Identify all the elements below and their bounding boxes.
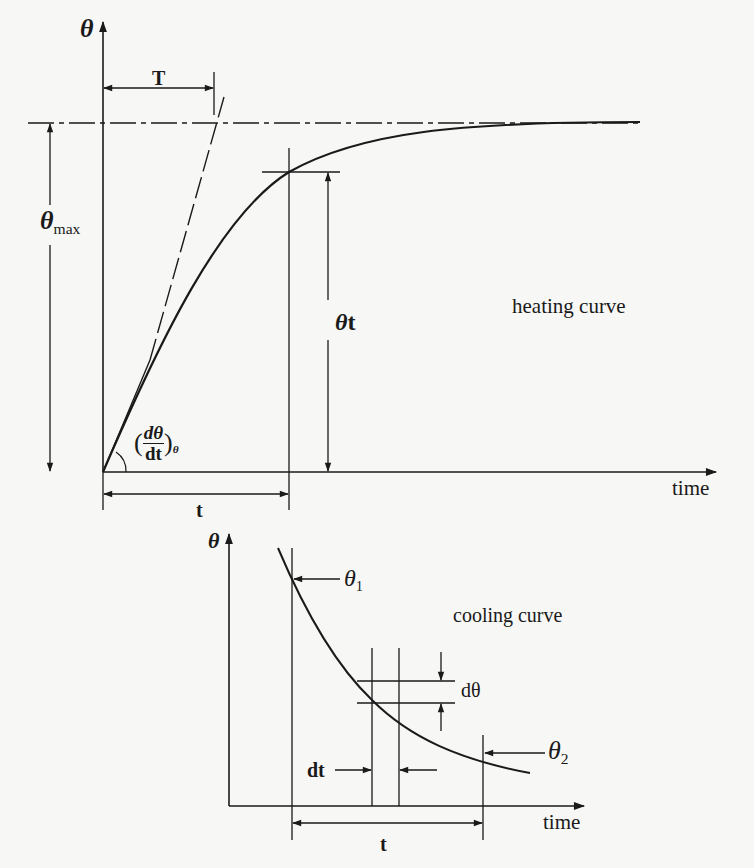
cooling-x-axis-label: time xyxy=(543,812,580,833)
heating-y-axis-label: θ xyxy=(80,16,94,42)
theta-max-subscript: max xyxy=(54,220,81,237)
cooling-diagram xyxy=(229,534,584,840)
theta1-subscript: 1 xyxy=(356,578,363,594)
figure-heating-cooling-curves: θ T θmax θt (dθdt)θ heating curve time t… xyxy=(0,0,754,868)
slope-subscript: θ xyxy=(173,443,179,455)
theta-t-symbol: θ xyxy=(335,309,347,335)
time-constant-label: T xyxy=(152,68,165,88)
cooling-curve-label: cooling curve xyxy=(453,605,562,625)
heating-curve-label: heating curve xyxy=(512,296,626,317)
diagram-lines xyxy=(0,0,754,868)
heating-x-axis-label: time xyxy=(672,478,709,499)
cooling-interval-t-label: t xyxy=(380,834,387,854)
slope-open-paren: ( xyxy=(134,428,143,457)
theta-max-label: θmax xyxy=(40,208,80,237)
theta2-label: θ2 xyxy=(548,738,569,767)
initial-tangent-dashed xyxy=(150,97,224,360)
slope-numerator: dθ xyxy=(143,423,164,444)
slope-denominator: dt xyxy=(143,444,164,464)
theta2-subscript: 2 xyxy=(561,750,569,767)
slope-angle-arc xyxy=(116,452,126,472)
cooling-curve xyxy=(278,548,530,773)
cooling-y-axis-label: θ xyxy=(208,530,219,552)
dtheta-label: dθ xyxy=(461,680,481,700)
heating-diagram xyxy=(28,22,716,510)
theta-t-subscript: t xyxy=(347,309,355,335)
slope-fraction: dθdt xyxy=(143,423,164,464)
theta1-symbol: θ xyxy=(344,565,356,591)
theta-max-symbol: θ xyxy=(40,206,54,235)
theta-t-label: θt xyxy=(335,310,355,334)
initial-slope-label: (dθdt)θ xyxy=(134,423,179,464)
theta1-label: θ1 xyxy=(344,566,363,593)
theta2-symbol: θ xyxy=(548,736,561,765)
dt-label: dt xyxy=(307,760,325,780)
slope-close-paren: ) xyxy=(164,428,173,457)
heating-interval-t-label: t xyxy=(196,500,203,520)
